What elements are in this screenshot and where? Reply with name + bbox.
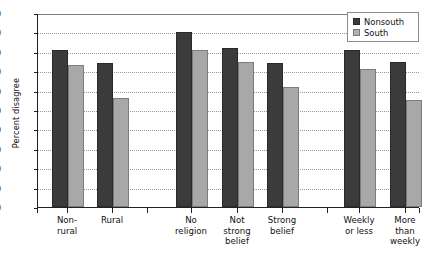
bar-nonsouth-2 (176, 32, 192, 207)
x-tick-mark (359, 208, 360, 213)
y-tick-label: 80 (0, 48, 1, 58)
y-tick-label: 100 (0, 9, 1, 19)
x-tick-mark (191, 208, 192, 213)
x-tick-label: Morethanweekly (366, 215, 425, 247)
legend-label-south: South (364, 28, 388, 38)
x-tick-mark (419, 208, 420, 213)
y-tick-label: 50 (0, 106, 1, 116)
bar-nonsouth-1 (97, 63, 113, 207)
y-tick-label: 30 (0, 145, 1, 155)
bar-nonsouth-4 (267, 63, 283, 207)
x-tick-mark (147, 208, 148, 213)
x-tick-mark (237, 208, 238, 213)
x-tick-label-line: belief (198, 236, 276, 247)
x-tick-label-line: belief (243, 226, 321, 237)
bars-layer (38, 14, 419, 207)
bar-south-1 (113, 98, 129, 207)
x-tick-label-line: More (366, 215, 425, 226)
legend-label-nonsouth: Nonsouth (364, 17, 404, 27)
x-tick-label: Rural (73, 215, 151, 226)
bar-south-2 (192, 50, 208, 207)
y-tick-label: 60 (0, 87, 1, 97)
x-tick-label: Strongbelief (243, 215, 321, 236)
x-tick-mark (37, 208, 38, 213)
x-tick-mark (67, 208, 68, 213)
bar-south-3 (238, 62, 254, 208)
bar-nonsouth-0 (52, 50, 68, 207)
legend-item-nonsouth: Nonsouth (353, 16, 414, 27)
x-tick-mark (112, 208, 113, 213)
x-tick-mark (282, 208, 283, 213)
legend-swatch-south (353, 29, 360, 36)
plot-area (37, 14, 419, 208)
bar-south-0 (68, 65, 84, 207)
legend-item-south: South (353, 27, 414, 38)
bar-south-5 (360, 69, 376, 207)
x-tick-label-line: rural (28, 226, 106, 237)
y-axis-title: Percent disagree (11, 53, 21, 173)
bar-nonsouth-3 (222, 48, 238, 207)
bar-nonsouth-5 (344, 50, 360, 207)
x-tick-label-line: than (366, 226, 425, 237)
x-tick-label-line: Rural (73, 215, 151, 226)
x-tick-label-line: Strong (243, 215, 321, 226)
bar-chart: Percent disagree 0102030405060708090100 … (0, 0, 425, 261)
y-tick-label: 40 (0, 125, 1, 135)
x-tick-label-line: weekly (366, 236, 425, 247)
y-tick-label: 90 (0, 28, 1, 38)
bar-south-6 (406, 100, 422, 207)
legend-swatch-nonsouth (353, 18, 360, 25)
bar-nonsouth-6 (390, 62, 406, 208)
y-tick-label: 70 (0, 67, 1, 77)
x-tick-mark (405, 208, 406, 213)
y-tick-label: 20 (0, 164, 1, 174)
y-tick-label: 10 (0, 184, 1, 194)
legend: Nonsouth South (347, 12, 419, 42)
x-tick-mark (327, 208, 328, 213)
y-tick-label: 0 (0, 203, 1, 213)
bar-south-4 (283, 87, 299, 207)
